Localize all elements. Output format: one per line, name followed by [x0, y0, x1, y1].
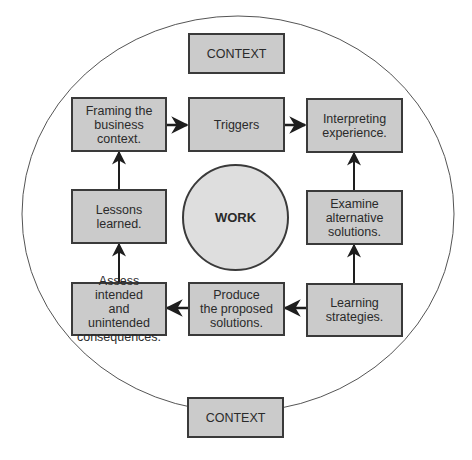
- step-learning-line-2: strategies.: [326, 310, 384, 324]
- step-examine-line-3: solutions.: [326, 225, 384, 239]
- step-framing-line-1: Framing the: [77, 104, 161, 118]
- step-assess-line-1: Assess intended: [77, 274, 161, 302]
- step-learning-box: Learning strategies.: [306, 283, 403, 337]
- step-framing-line-2: business context.: [77, 118, 161, 146]
- step-produce-box: Produce the proposed solutions.: [188, 282, 285, 336]
- step-framing-box: Framing the business context.: [71, 97, 167, 152]
- step-produce-line-2: the proposed: [200, 302, 273, 316]
- step-assess-line-2: and unintended: [77, 302, 161, 330]
- step-lessons-box: Lessons learned.: [71, 189, 167, 244]
- step-produce-line-3: solutions.: [200, 316, 273, 330]
- step-examine-line-2: alternative: [326, 211, 384, 225]
- step-examine-box: Examine alternative solutions.: [306, 190, 403, 245]
- step-learning-line-1: Learning: [326, 296, 384, 310]
- context-top-box: CONTEXT: [188, 33, 285, 74]
- step-assess-box: Assess intended and unintended consequen…: [71, 282, 167, 336]
- context-bottom-box: CONTEXT: [187, 397, 284, 438]
- step-triggers-label: Triggers: [214, 118, 259, 132]
- step-triggers-box: Triggers: [188, 97, 285, 152]
- step-examine-line-1: Examine: [326, 197, 384, 211]
- step-interpreting-line-2: experience.: [322, 126, 387, 140]
- step-interpreting-box: Interpreting experience.: [306, 98, 403, 153]
- work-label: WORK: [215, 210, 256, 225]
- context-bottom-label: CONTEXT: [206, 411, 266, 425]
- step-produce-line-1: Produce: [200, 288, 273, 302]
- step-lessons-line-2: learned.: [96, 217, 143, 231]
- work-circle: WORK: [182, 164, 289, 271]
- step-interpreting-line-1: Interpreting: [322, 112, 387, 126]
- step-assess-line-3: consequences.: [77, 330, 161, 344]
- step-lessons-line-1: Lessons: [96, 203, 143, 217]
- context-top-label: CONTEXT: [207, 47, 267, 61]
- work-context-diagram: CONTEXT Framing the business context. Tr…: [0, 0, 472, 460]
